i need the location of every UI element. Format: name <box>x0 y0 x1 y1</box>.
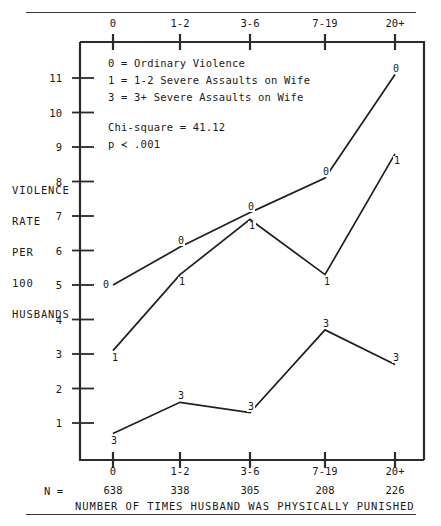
point-marker-0-2: 0 <box>247 202 255 212</box>
x-tick-label-top-1: 1-2 <box>150 18 210 29</box>
point-marker-3-3: 3 <box>322 319 330 329</box>
group-size-3: 208 <box>295 485 355 496</box>
y-tick-marks <box>72 78 94 423</box>
point-marker-3-1: 3 <box>177 391 185 401</box>
group-size-0: 638 <box>83 485 143 496</box>
series-line-0 <box>113 75 395 285</box>
x-tick-label-top-3: 7-19 <box>295 18 355 29</box>
point-marker-0-1: 0 <box>177 236 185 246</box>
x-tick-label-bottom-1: 1-2 <box>150 466 210 477</box>
y-axis-title-line-3: 100 <box>12 278 34 289</box>
legend-line-2: 3 = 3+ Severe Assaults on Wife <box>108 92 304 103</box>
point-marker-0-3: 0 <box>322 167 330 177</box>
y-tick-label-11: 11 <box>34 73 62 84</box>
y-tick-label-10: 10 <box>34 108 62 119</box>
x-tick-label-top-0: 0 <box>83 18 143 29</box>
y-axis-title-line-0: VIOLENCE <box>12 185 70 196</box>
y-tick-label-2: 2 <box>34 384 62 395</box>
x-tick-label-bottom-0: 0 <box>83 466 143 477</box>
x-tick-label-bottom-4: 20+ <box>365 466 425 477</box>
chi-square-annotation: Chi-square = 41.12 <box>108 122 225 133</box>
legend-line-1: 1 = 1-2 Severe Assaults on Wife <box>108 75 310 86</box>
point-marker-3-2: 3 <box>247 402 255 412</box>
y-tick-label-6: 6 <box>34 246 62 257</box>
p-value-annotation: p ≺ .001 <box>108 139 160 150</box>
group-size-2: 305 <box>220 485 280 496</box>
point-marker-3-4: 3 <box>392 353 400 363</box>
x-tick-label-top-2: 3-6 <box>220 18 280 29</box>
point-marker-1-3: 1 <box>323 277 331 287</box>
x-tick-label-top-4: 20+ <box>365 18 425 29</box>
x-tick-label-bottom-2: 3-6 <box>220 466 280 477</box>
x-axis-title: NUMBER OF TIMES HUSBAND WAS PHYSICALLY P… <box>75 501 414 512</box>
group-size-4: 226 <box>365 485 425 496</box>
series-line-1 <box>113 154 395 351</box>
point-marker-1-0: 1 <box>111 353 119 363</box>
y-axis-title-line-2: PER <box>12 247 34 258</box>
y-tick-label-3: 3 <box>34 349 62 360</box>
figure-container: 1234567891011 01-23-67-1920+ 01-23-67-19… <box>0 0 441 526</box>
y-axis-title-line-1: RATE <box>12 216 41 227</box>
point-marker-0-0: 0 <box>102 280 110 290</box>
legend-line-0: 0 = Ordinary Violence <box>108 58 245 69</box>
point-marker-1-4: 1 <box>393 156 401 166</box>
y-axis-title-line-4: HUSBANDS <box>12 309 70 320</box>
axis-left-bottom <box>80 42 424 460</box>
point-marker-1-1: 1 <box>178 277 186 287</box>
y-tick-label-5: 5 <box>34 280 62 291</box>
axis-top-right <box>80 42 424 460</box>
point-marker-0-4: 0 <box>392 64 400 74</box>
group-size-1: 338 <box>150 485 210 496</box>
x-tick-label-bottom-3: 7-19 <box>295 466 355 477</box>
point-marker-1-2: 1 <box>248 221 256 231</box>
plot-frame <box>80 42 424 460</box>
series-line-3 <box>113 330 395 434</box>
point-marker-3-0: 3 <box>110 436 118 446</box>
n-prefix-label: N = <box>44 486 63 497</box>
y-tick-label-9: 9 <box>34 142 62 153</box>
y-tick-label-1: 1 <box>34 418 62 429</box>
